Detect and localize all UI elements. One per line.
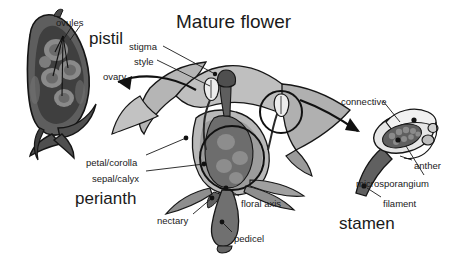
label-stamen: stamen: [339, 215, 395, 232]
flower-diagram: Mature flower pistil perianth stamen ovu…: [0, 0, 462, 255]
label-style: style: [134, 57, 154, 67]
label-petal-corolla: petal/corolla: [86, 158, 137, 168]
label-pistil: pistil: [89, 30, 123, 47]
label-pedicel: pedicel: [234, 234, 264, 244]
label-sepal-calyx: sepal/calyx: [92, 174, 139, 184]
page-title: Mature flower: [176, 12, 291, 31]
label-perianth: perianth: [75, 190, 136, 207]
label-microsporangium: microsporangium: [356, 179, 429, 189]
label-filament: filament: [383, 199, 416, 209]
label-anther: anther: [414, 161, 441, 171]
label-ovules: ovules: [56, 18, 83, 28]
label-floral-axis: floral axis: [241, 199, 281, 209]
label-connective: connective: [341, 97, 386, 107]
label-nectary: nectary: [157, 216, 188, 226]
label-ovary: ovary: [103, 72, 126, 82]
label-stigma: stigma: [129, 42, 157, 52]
